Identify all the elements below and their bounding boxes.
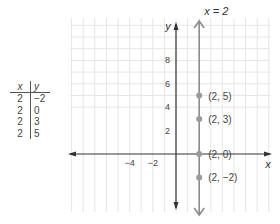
grid	[70, 18, 270, 212]
data-point	[196, 174, 202, 180]
x-tick-label: −2	[148, 158, 158, 168]
data-point-label: (2, −2)	[208, 172, 237, 183]
x-tick-label: −4	[124, 158, 134, 168]
x-axis-label: x	[264, 158, 271, 170]
vertical-line-label: x = 2	[203, 5, 228, 17]
data-point-label: (2, 0)	[208, 149, 231, 160]
y-tick-label: 2	[165, 126, 170, 136]
data-point-label: (2, 5)	[208, 91, 231, 102]
y-tick-label: 6	[165, 79, 170, 89]
points: (2, 5)(2, 3)(2, 0)(2, −2)	[196, 91, 237, 184]
data-point-label: (2, 3)	[208, 114, 231, 125]
y-tick-label: 8	[165, 55, 170, 65]
data-point	[196, 116, 202, 122]
data-point	[196, 151, 202, 157]
x-axis-right-arrow-icon	[264, 152, 272, 157]
y-axis-label: y	[164, 20, 172, 32]
coordinate-plane: xy x = 2 −4−22468 (2, 5)(2, 3)(2, 0)(2, …	[0, 0, 280, 224]
data-point	[196, 93, 202, 99]
y-axis-up-arrow-icon	[174, 22, 179, 30]
y-axis-down-arrow-icon	[174, 202, 179, 210]
y-tick-label: 4	[165, 102, 170, 112]
